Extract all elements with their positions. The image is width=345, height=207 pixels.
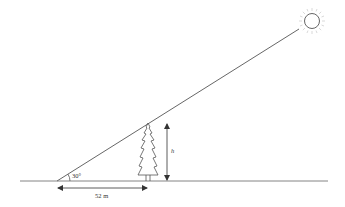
angle-label: 30° <box>72 172 82 179</box>
angle-arc <box>68 174 70 181</box>
sun-icon <box>299 8 325 34</box>
height-label: h <box>171 147 174 154</box>
sun-ray-line <box>57 29 299 181</box>
tree-icon <box>138 123 158 181</box>
trig-diagram: 30° h 52 m <box>0 0 345 207</box>
distance-label: 52 m <box>95 192 108 199</box>
